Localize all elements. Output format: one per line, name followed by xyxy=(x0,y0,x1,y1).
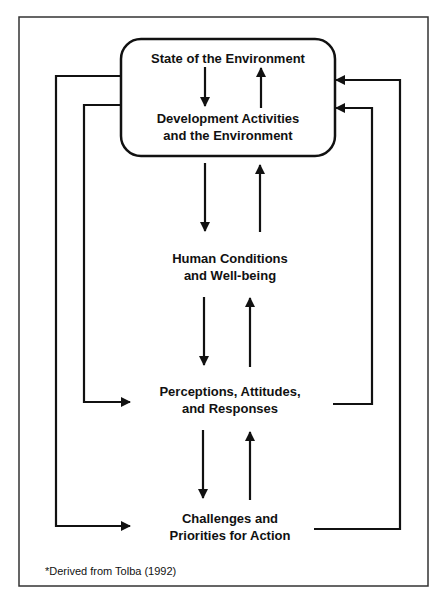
node-development-label: Development Activities and the Environme… xyxy=(121,110,335,144)
node-challenges-line2: Priorities for Action xyxy=(130,527,330,544)
outer-frame xyxy=(19,17,428,586)
connector-right-inner xyxy=(333,108,372,404)
connector-left-outer xyxy=(56,76,130,526)
node-perceptions-line1: Perceptions, Attitudes, xyxy=(130,383,330,400)
connector-left-inner xyxy=(84,105,130,402)
node-human-label: Human Conditions and Well-being xyxy=(130,250,330,284)
node-development-line1: Development Activities xyxy=(121,110,335,127)
connector-right-outer xyxy=(314,80,400,529)
footnote: *Derived from Tolba (1992) xyxy=(45,565,176,577)
node-state-label: State of the Environment xyxy=(121,50,335,67)
node-perceptions-label: Perceptions, Attitudes, and Responses xyxy=(130,383,330,417)
node-challenges-label: Challenges and Priorities for Action xyxy=(130,510,330,544)
node-development-line2: and the Environment xyxy=(121,127,335,144)
node-human-line1: Human Conditions xyxy=(130,250,330,267)
node-challenges-line1: Challenges and xyxy=(130,510,330,527)
node-human-line2: and Well-being xyxy=(130,267,330,284)
node-perceptions-line2: and Responses xyxy=(130,400,330,417)
